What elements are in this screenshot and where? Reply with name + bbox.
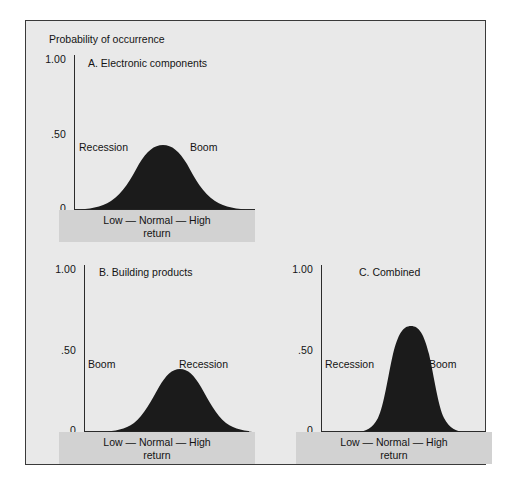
figure-frame: Probability of occurrence 1.00 .50 0 A. … bbox=[25, 20, 486, 465]
panel-c-combined: 1.00 .50 0 C. Combined Recession Boom Lo… bbox=[251, 246, 487, 461]
panel-b-building-products: 1.00 .50 0 B. Building products Boom Rec… bbox=[26, 246, 276, 461]
panel-c-band-line2: return bbox=[296, 449, 492, 462]
panel-a-electronic-components: Probability of occurrence 1.00 .50 0 A. … bbox=[26, 21, 286, 246]
panel-c-ytick-1: 1.00 bbox=[281, 263, 313, 275]
panel-a-ytick-1: 1.00 bbox=[34, 53, 66, 65]
panel-b-ytick-1: 1.00 bbox=[44, 263, 76, 275]
panel-c-ytick-050: .50 bbox=[281, 344, 313, 356]
panel-b-band-line2: return bbox=[59, 449, 255, 462]
panel-c-band-line1: Low — Normal — High bbox=[296, 436, 492, 449]
panel-a-axis-band: Low — Normal — High return bbox=[59, 210, 255, 242]
panel-c-axis-band: Low — Normal — High return bbox=[296, 432, 492, 464]
panel-a-band-line1: Low — Normal — High bbox=[59, 214, 255, 227]
panel-c-distribution-curve bbox=[318, 246, 510, 446]
panel-b-axis-band: Low — Normal — High return bbox=[59, 432, 255, 464]
panel-a-ytick-050: .50 bbox=[34, 128, 66, 140]
panel-a-band-line2: return bbox=[59, 227, 255, 240]
panel-b-ytick-050: .50 bbox=[44, 344, 76, 356]
panel-b-band-line1: Low — Normal — High bbox=[59, 436, 255, 449]
panel-a-distribution-curve bbox=[71, 21, 271, 221]
